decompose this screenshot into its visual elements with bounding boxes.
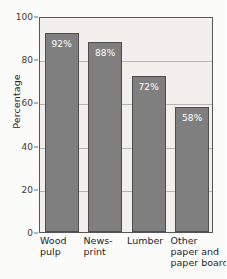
y-tick-label-0: 0 (27, 228, 33, 238)
y-tick-mark-100 (34, 17, 38, 18)
bar-value-label-lumber: 72% (133, 82, 165, 92)
y-tick-mark-60 (34, 103, 38, 104)
x-label-other-paper-line-1: Other (171, 235, 227, 246)
y-tick-label-60: 60 (22, 98, 33, 108)
y-tick-label-20: 20 (22, 185, 33, 195)
bar-newsprint: 88% (88, 42, 122, 232)
x-label-wood-pulp: Wood pulp (40, 235, 67, 257)
y-tick-label-80: 80 (22, 55, 33, 65)
x-label-lumber: Lumber (127, 235, 163, 246)
y-tick-label-40: 40 (22, 142, 33, 152)
x-label-wood-pulp-line-2: pulp (40, 246, 67, 257)
y-tick-mark-80 (34, 60, 38, 61)
bar-wood-pulp: 92% (45, 33, 79, 232)
bar-chart: Percentage 100 80 60 40 20 0 92% 88% 72% (0, 0, 226, 279)
y-tick-mark-40 (34, 146, 38, 147)
x-label-newsprint-line-2: print (84, 246, 113, 257)
x-label-other-paper-line-3: paper board (171, 257, 227, 268)
x-label-other-paper-line-2: paper and (171, 246, 227, 257)
y-tick-label-100: 100 (16, 12, 33, 22)
y-axis-ticks: 100 80 60 40 20 0 (0, 0, 38, 279)
bar-other-paper: 58% (175, 107, 209, 232)
x-axis-labels: Wood pulp News- print Lumber Other paper… (39, 235, 213, 279)
x-label-newsprint: News- print (84, 235, 113, 257)
x-label-lumber-line-1: Lumber (127, 235, 163, 246)
x-label-other-paper: Other paper and paper board (171, 235, 227, 268)
plot-area: 92% 88% 72% 58% (39, 17, 213, 233)
bar-lumber: 72% (132, 76, 166, 232)
bar-value-label-newsprint: 88% (89, 48, 121, 58)
bars-layer: 92% 88% 72% 58% (40, 18, 212, 232)
bar-value-label-wood-pulp: 92% (46, 39, 78, 49)
y-tick-mark-20 (34, 189, 38, 190)
x-label-wood-pulp-line-1: Wood (40, 235, 67, 246)
x-label-newsprint-line-1: News- (84, 235, 113, 246)
y-tick-mark-0 (34, 233, 38, 234)
bar-value-label-other-paper: 58% (176, 113, 208, 123)
